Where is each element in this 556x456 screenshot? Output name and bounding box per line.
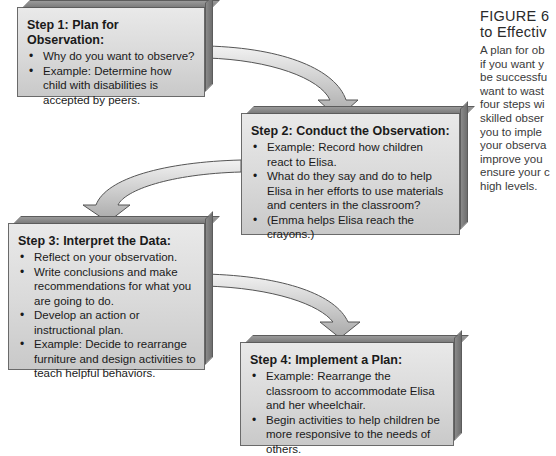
step-1-bullets: Why do you want to observe? Example: Det…: [27, 49, 196, 107]
step-1-title: Step 1: Plan for Observation:: [27, 18, 196, 48]
list-item: (Emma helps Elisa reach the crayons.): [251, 213, 451, 242]
list-item: Begin activities to help children be mor…: [250, 413, 445, 456]
box-side-bevel: [205, 0, 213, 92]
figure-body-line: A plan for ob: [480, 44, 556, 58]
list-item: Why do you want to observe?: [27, 49, 196, 64]
step-4-title: Step 4: Implement a Plan:: [250, 353, 445, 368]
list-item: Example: Determine how child with disabi…: [27, 64, 196, 108]
step-3-title: Step 3: Interpret the Data:: [18, 234, 196, 249]
figure-caption: FIGURE 6 to Effectiv A plan for ob if yo…: [480, 8, 556, 194]
box-side-bevel: [205, 211, 213, 365]
step-3-bullets: Reflect on your observation. Write concl…: [18, 250, 196, 381]
list-item: Example: Record how children react to El…: [251, 140, 451, 169]
figure-body-line: improve you: [480, 153, 556, 167]
figure-title-line-1: FIGURE 6: [480, 8, 556, 24]
step-4-box: Step 4: Implement a Plan: Example: Rearr…: [240, 342, 454, 446]
step-2-box: Step 2: Conduct the Observation: Example…: [241, 113, 460, 235]
figure-body-line: your observa: [480, 139, 556, 153]
box-top-bevel: [22, 0, 220, 8]
step-2-title: Step 2: Conduct the Observation:: [251, 124, 451, 139]
box-top-bevel: [13, 216, 220, 224]
box-side-bevel: [460, 101, 468, 230]
list-item: Example: Decide to rearrange furniture a…: [18, 337, 196, 381]
step-4-bullets: Example: Rearrange the classroom to acco…: [250, 369, 445, 456]
list-item: Example: Rearrange the classroom to acco…: [250, 369, 445, 413]
figure-title: FIGURE 6 to Effectiv: [480, 8, 556, 40]
list-item: Reflect on your observation.: [18, 250, 196, 265]
figure-body-line: you to imple: [480, 126, 556, 140]
step-1-box: Step 1: Plan for Observation: Why do you…: [17, 7, 205, 97]
box-top-bevel: [245, 335, 469, 343]
box-side-bevel: [454, 330, 462, 441]
figure-body-line: want to wast: [480, 85, 556, 99]
box-top-bevel: [246, 106, 475, 114]
figure-body-line: high levels.: [480, 180, 556, 194]
list-item: Write conclusions and make recommendatio…: [18, 265, 196, 309]
step-3-box: Step 3: Interpret the Data: Reflect on y…: [8, 223, 205, 370]
arrow-step3-to-step4: [205, 274, 360, 338]
list-item: Develop an action or instructional plan.: [18, 308, 196, 337]
step-2-bullets: Example: Record how children react to El…: [251, 140, 451, 242]
figure-body-line: be successfu: [480, 71, 556, 85]
figure-title-line-2: to Effectiv: [480, 24, 556, 40]
figure-body-line: skilled obser: [480, 112, 556, 126]
list-item: What do they say and do to help Elisa in…: [251, 169, 451, 213]
arrow-step2-to-step3: [83, 160, 241, 222]
figure-body-line: if you want y: [480, 58, 556, 72]
figure-body: A plan for ob if you want y be successfu…: [480, 44, 556, 194]
figure-body-line: four steps wi: [480, 98, 556, 112]
figure-body-line: ensure your c: [480, 166, 556, 180]
